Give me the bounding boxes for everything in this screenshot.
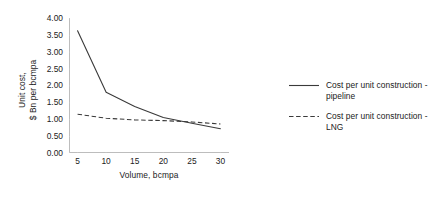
y-tick-label: 0.00 [35,149,63,158]
legend-swatch-dashed-line-icon [289,111,319,122]
x-tick-label: 5 [66,156,90,166]
chart-legend: Cost per unit construction - pipeline Co… [289,80,441,142]
legend-item-lng[interactable]: Cost per unit construction - LNG [289,111,441,133]
x-tick-label: 25 [180,156,204,166]
y-tick-label: 2.00 [35,81,63,90]
y-axis-tick-labels: 4.00 3.50 3.00 2.50 2.00 1.50 1.00 0.50 … [33,0,63,197]
x-tick-label: 15 [123,156,147,166]
x-tick-label: 30 [208,156,232,166]
legend-label-pipeline: Cost per unit construction - pipeline [326,80,427,102]
series-line-pipeline [78,31,221,129]
legend-swatch-solid-line-icon [289,80,319,91]
series-line-lng [78,114,221,124]
y-tick-label: 1.50 [35,98,63,107]
x-axis-tick-labels: 5 10 15 20 25 30 [69,156,239,168]
y-tick-label: 1.00 [35,115,63,124]
legend-label-lng-line2: LNG [326,122,343,132]
legend-label-pipeline-line2: pipeline [326,91,355,101]
y-tick-label: 0.50 [35,132,63,141]
plot-svg [69,18,229,153]
legend-label-lng-line1: Cost per unit construction - [326,111,427,121]
x-axis-title: Volume, bcmpa [69,170,229,180]
legend-item-pipeline[interactable]: Cost per unit construction - pipeline [289,80,441,102]
y-tick-label: 4.00 [35,14,63,23]
legend-label-lng: Cost per unit construction - LNG [326,111,427,133]
y-axis-title-line1: Unit cost, [17,20,28,160]
y-tick-label: 3.50 [35,31,63,40]
chart-figure: Unit cost, $ Bn per bcmpa 4.00 3.50 3.00… [0,0,444,197]
x-tick-label: 10 [94,156,118,166]
plot-area [69,18,229,153]
legend-label-pipeline-line1: Cost per unit construction - [326,80,427,90]
y-tick-label: 3.00 [35,48,63,57]
x-tick-label: 20 [151,156,175,166]
y-tick-label: 2.50 [35,65,63,74]
